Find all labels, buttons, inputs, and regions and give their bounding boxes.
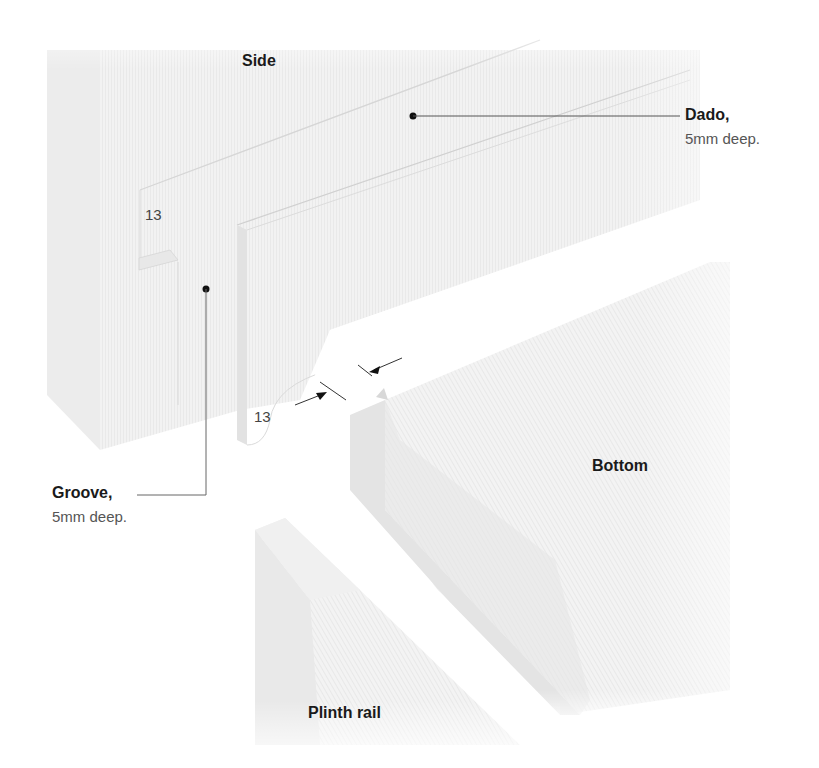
dado-callout-detail: 5mm deep. [685,130,760,147]
groove-callout-title: Groove, [52,484,112,502]
side-label: Side [242,52,276,70]
plinth-rail-label: Plinth rail [308,704,381,722]
bottom-label: Bottom [592,457,648,475]
groove-offset-dimension: 13 [145,206,162,223]
groove-callout-detail: 5mm deep. [52,508,127,525]
gap-dimension: 13 [254,408,271,425]
dado-callout-title: Dado, [685,106,729,124]
